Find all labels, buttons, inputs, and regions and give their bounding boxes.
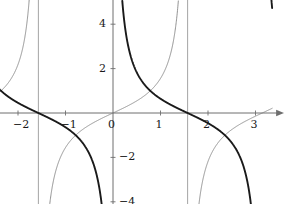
plot-canvas xyxy=(0,0,284,204)
y-tick-label: 4 xyxy=(99,18,106,29)
x-tick-label: −2 xyxy=(13,119,29,130)
x-tick-label: −1 xyxy=(61,119,77,130)
x-axis-arrow xyxy=(276,110,284,117)
y-tick-label: 2 xyxy=(99,63,106,74)
x-tick-label: 3 xyxy=(251,119,258,130)
y-tick-label: −2 xyxy=(119,151,135,162)
x-tick-label: 2 xyxy=(203,119,210,130)
y-tick-label: −4 xyxy=(119,196,135,204)
cot-curve xyxy=(0,0,272,204)
tan-curve xyxy=(0,0,272,204)
trigonometric-graph: −3−2−10123 −4−224 x y xyxy=(0,0,284,204)
axis-group xyxy=(0,0,284,204)
x-tick-label: 0 xyxy=(108,119,115,130)
x-tick-label: 1 xyxy=(156,119,163,130)
